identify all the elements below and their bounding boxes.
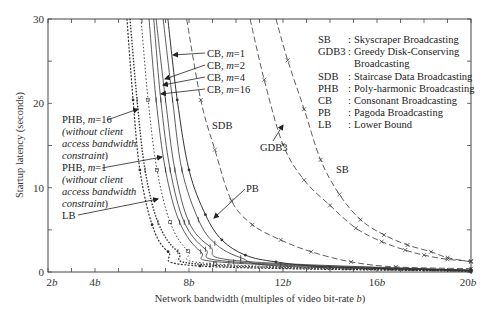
svg-text:(without client: (without client: [62, 174, 124, 186]
legend-sep: :: [348, 119, 351, 130]
data-marker: [302, 178, 306, 182]
data-marker: [151, 223, 154, 226]
data-marker: [429, 250, 433, 254]
data-marker: [213, 148, 217, 152]
label-cb-m16: CB, m=16: [207, 84, 250, 95]
data-marker: [250, 223, 254, 227]
data-marker: [167, 250, 170, 253]
data-marker: [138, 169, 141, 172]
label-cb-m1: CB, m=1: [207, 48, 245, 59]
svg-text:constraint): constraint): [62, 150, 109, 162]
legend-abbr: LB: [318, 119, 331, 130]
x-tick-16b: 16b: [369, 276, 386, 288]
legend-abbr: SB: [318, 34, 331, 45]
legend-name: Pagoda Broadcasting: [354, 107, 444, 118]
svg-text:PB: PB: [246, 183, 259, 194]
label-cb-m2: CB, m=2: [207, 60, 245, 71]
data-marker: [403, 248, 407, 252]
y-tick-labels: 0 10 20 30: [33, 13, 45, 278]
x-tick-20b: 20b: [460, 276, 477, 288]
legend-sep: :: [348, 71, 351, 82]
x-tick-2b: 2b: [47, 276, 59, 288]
data-marker: [406, 243, 410, 247]
y-axis-title: Startup latency (seconds): [14, 91, 26, 198]
svg-text:LB: LB: [62, 210, 75, 221]
label-cb-m4: CB, m=4: [207, 72, 246, 83]
y-tick-10: 10: [33, 182, 45, 194]
data-marker: [204, 213, 207, 216]
data-marker: [199, 265, 202, 268]
legend-abbr: SDB: [318, 71, 338, 82]
phb-m16-annotation: PHB, m=16 (without client access bandwid…: [62, 109, 138, 162]
svg-text:access bandwidth: access bandwidth: [62, 186, 136, 197]
data-marker: [337, 192, 341, 196]
chart: 0 10 20 30 2b 4b 8b 12b 16b 20b Startup …: [0, 0, 499, 311]
data-marker: [354, 226, 358, 230]
data-marker: [359, 218, 363, 222]
data-marker: [302, 107, 306, 111]
label-sb: SB: [336, 164, 349, 175]
legend-sep: :: [348, 107, 351, 118]
x-tick-8b: 8b: [184, 276, 196, 288]
data-marker: [328, 203, 332, 207]
data-series: [127, 19, 473, 274]
data-marker: [380, 240, 384, 244]
y-tick-0: 0: [39, 266, 45, 278]
cb-annotations: CB, m=1 CB, m=2 CB, m=4 CB, m=16: [161, 48, 250, 95]
data-marker: [132, 99, 135, 102]
legend-name: Greedy Disk-Conserving: [354, 46, 460, 57]
legend-sep: :: [348, 95, 351, 106]
x-tick-4b: 4b: [90, 276, 102, 288]
pb-annotation: PB: [214, 183, 259, 218]
data-marker: [279, 238, 283, 242]
legend-sep: :: [348, 34, 351, 45]
svg-text:GDB3: GDB3: [260, 142, 287, 153]
legend-abbr: PB: [318, 107, 331, 118]
y-tick-30: 30: [33, 13, 45, 25]
legend-name: Broadcasting: [354, 58, 410, 69]
data-marker: [470, 270, 473, 273]
data-marker: [286, 58, 290, 62]
y-tick-20: 20: [33, 97, 45, 109]
data-marker: [309, 250, 313, 254]
legend-abbr: GDB3: [318, 46, 345, 57]
legend: SB:Skyscraper BroadcastingGDB3:Greedy Di…: [318, 34, 475, 130]
data-marker: [221, 239, 224, 242]
data-marker: [244, 254, 247, 257]
svg-text:PHB, m=1: PHB, m=1: [62, 162, 106, 173]
x-tick-12b: 12b: [275, 276, 292, 288]
data-marker: [188, 169, 191, 172]
legend-abbr: CB: [318, 95, 332, 106]
legend-name: Staircase Data Broadcasting: [354, 71, 473, 82]
svg-text:access bandwidth: access bandwidth: [62, 138, 136, 149]
legend-sep: :: [348, 83, 351, 94]
svg-text:(without client: (without client: [62, 126, 124, 138]
x-tick-labels: 2b 4b 8b 12b 16b 20b: [47, 276, 477, 288]
gdb3-annotation: GDB3: [260, 125, 287, 153]
data-marker: [382, 233, 386, 237]
data-marker: [319, 158, 323, 162]
legend-name: Skyscraper Broadcasting: [354, 34, 459, 45]
legend-abbr: PHB: [318, 83, 338, 94]
svg-text:PHB, m=16: PHB, m=16: [62, 114, 112, 125]
legend-name: Lower Bound: [354, 119, 413, 130]
data-marker: [176, 99, 179, 102]
legend-sep: :: [348, 46, 351, 57]
legend-name: Poly-harmonic Broadcasting: [354, 83, 475, 94]
x-axis-title: Network bandwidth (multiples of video bi…: [155, 293, 366, 305]
label-sdb: SDB: [212, 120, 232, 131]
legend-name: Consonant Broadcasting: [354, 95, 458, 106]
svg-text:constraint): constraint): [62, 198, 109, 210]
